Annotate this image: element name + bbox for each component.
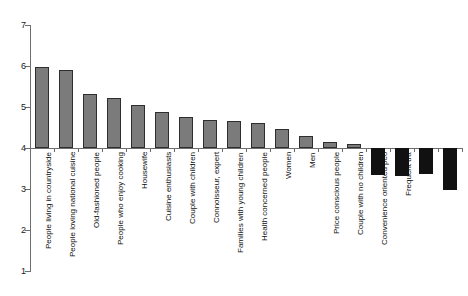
bar-chart: 1234567 People living in countrysidePeop… [0,0,468,296]
bar [395,148,409,176]
bar [443,148,457,190]
negative-bars-overlay [0,0,468,296]
plot-area: People living in countrysidePeople lovin… [0,0,468,296]
bar [419,148,433,174]
bar [371,148,385,175]
